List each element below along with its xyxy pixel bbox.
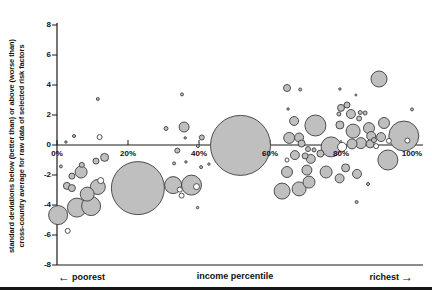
bubble [353,169,362,178]
bubble [285,158,289,162]
bubble [68,185,75,192]
bubble [73,135,76,138]
bubble [374,144,379,149]
bubble [49,206,68,225]
bubble [355,201,358,204]
bubble [337,112,341,116]
bubble [346,124,360,138]
bubble [284,132,295,143]
bubble [199,135,204,140]
bubble [302,165,312,175]
x-tick-label: 0% [40,149,74,158]
bubble [320,166,332,178]
bubble [173,162,176,165]
bubble [355,94,357,96]
bubble [372,138,377,143]
bubble [200,166,203,169]
bubble [317,150,324,157]
bubble [98,178,104,184]
bubble [80,187,94,201]
bubble [179,193,184,198]
x-tick-label: 40% [182,149,216,158]
bubble [411,108,414,111]
bubble [405,138,410,143]
bubble [177,187,182,192]
bubble [306,147,311,152]
bubble [284,85,291,92]
bubble [290,117,299,126]
bubble [185,161,187,163]
bubble [59,165,62,168]
bubble [97,135,102,140]
bubble [290,151,299,160]
right-arrow-icon: → [399,270,415,284]
bubble [363,111,367,115]
bubble [347,139,357,149]
y-tick-label: -6 [25,231,51,239]
bubble [338,104,345,111]
bubble [65,141,67,143]
bubble [377,133,386,142]
y-axis-title-line1: standard deviations below (better than) … [7,3,17,289]
bubble-chart-figure: standard deviations below (better than) … [0,0,432,290]
bubble [79,162,84,167]
poorest-label-text: poorest [72,272,105,282]
bubble [196,145,199,148]
bubble [93,158,99,164]
y-tick-label: -2 [25,171,51,179]
plot-area [0,0,432,290]
richest-label-text: richest [369,272,399,282]
bubble [274,183,290,199]
bubble [346,110,355,119]
bubble [196,206,198,208]
bubble [336,121,344,129]
bubble [175,148,180,153]
y-tick-label: -4 [25,201,51,209]
bubble [371,71,387,87]
bubble [312,148,316,152]
x-axis-title: income percentile [165,271,305,282]
bubble [298,140,305,147]
bubble [194,184,200,190]
bubble [339,88,341,90]
y-tick-label: 4 [25,81,51,89]
bubble [101,153,109,161]
bubble [75,166,87,178]
y-tick-label: 8 [25,21,51,29]
y-tick-label: 0 [25,141,51,149]
bubble [181,93,184,96]
bubble [303,176,315,188]
bubble [282,167,293,178]
bubble [367,183,370,186]
bubble [211,115,271,175]
bubble [96,98,99,101]
bubble [358,111,362,115]
bubble [305,115,326,136]
bubble [179,122,189,132]
bubble [69,173,75,179]
bubble [344,102,350,108]
bubble [357,116,362,121]
bubble [164,127,168,131]
bubble [389,121,419,151]
bubble [111,162,164,215]
bubble [302,153,308,159]
bubble [386,138,391,143]
bubble [65,228,70,233]
x-tick-label: 100% [395,149,429,158]
y-tick-label: 6 [25,51,51,59]
left-arrow-icon: ← [56,270,72,284]
x-tick-label: 80% [324,149,358,158]
x-axis-annotation-richest: richest→ [303,271,415,283]
y-tick-label: 2 [25,111,51,119]
x-tick-label: 60% [253,149,287,158]
bubble [342,164,350,172]
x-tick-label: 20% [111,149,145,158]
bubble [208,163,210,165]
y-tick-label: -8 [25,261,51,269]
bubble [335,174,344,183]
bubble [299,88,302,91]
bubble [287,108,289,110]
bubble [184,137,186,139]
bubble [379,118,390,129]
